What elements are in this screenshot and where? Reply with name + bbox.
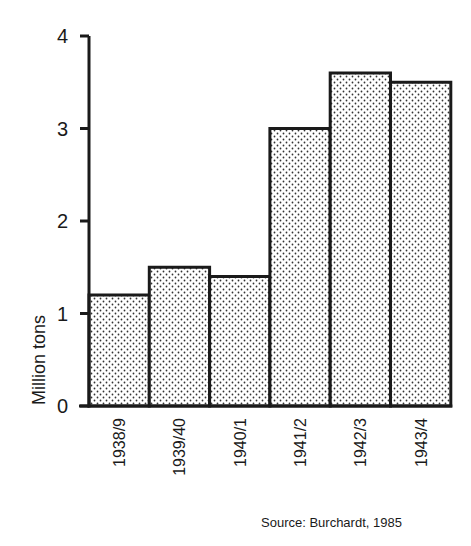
bar-1938-9: [89, 295, 149, 406]
category-labels-group: 1938/91939/401940/11941/21942/31943/4: [111, 418, 430, 476]
bar-chart: 01234 1938/91939/401940/11941/21942/3194…: [0, 0, 471, 546]
y-tick-label: 3: [57, 118, 68, 140]
x-category-label: 1938/9: [111, 418, 128, 467]
y-ticks-group: 01234: [57, 25, 89, 417]
y-tick-label: 4: [57, 25, 68, 47]
bar-1939-40: [149, 267, 209, 406]
bar-1941-2: [270, 129, 330, 407]
y-tick-label: 1: [57, 303, 68, 325]
x-category-label: 1941/2: [292, 418, 309, 467]
bar-1942-3: [330, 73, 390, 406]
x-category-label: 1939/40: [171, 418, 188, 476]
bars-group: [89, 73, 451, 406]
x-category-label: 1940/1: [232, 418, 249, 467]
source-note: Source: Burchardt, 1985: [261, 515, 402, 530]
y-tick-label: 0: [57, 395, 68, 417]
x-category-label: 1943/4: [413, 418, 430, 467]
bar-1943-4: [391, 82, 451, 406]
bar-1940-1: [210, 277, 270, 407]
x-category-label: 1942/3: [352, 418, 369, 467]
y-axis-label: Million tons: [29, 315, 49, 405]
y-tick-label: 2: [57, 210, 68, 232]
